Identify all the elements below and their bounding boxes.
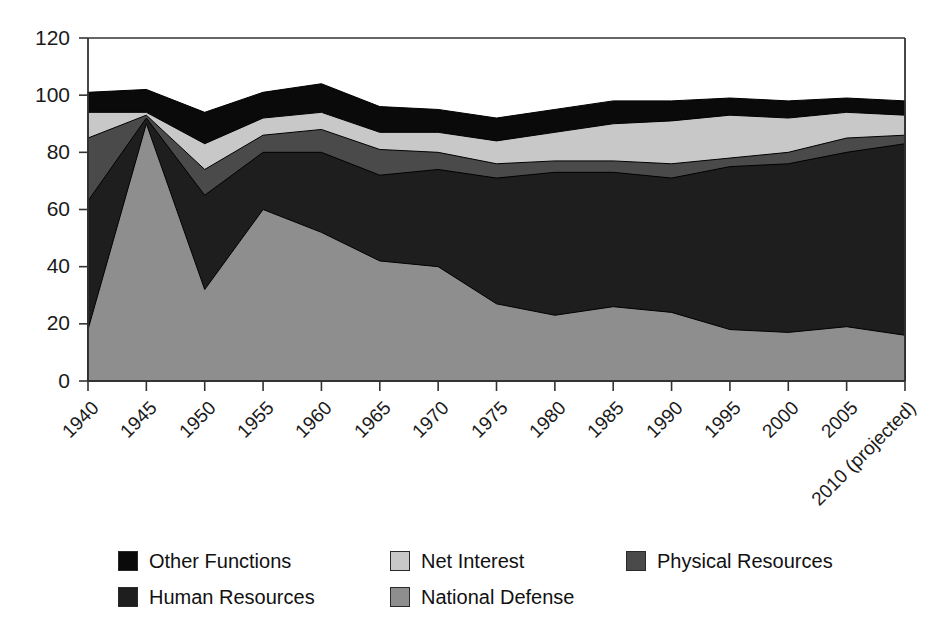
legend-label-physical-resources: Physical Resources (657, 551, 833, 571)
x-axis-ticks (88, 381, 905, 391)
legend-item-net-interest[interactable]: Net Interest (390, 548, 524, 574)
legend-label-national-defense: National Defense (421, 587, 574, 607)
legend-label-other-functions: Other Functions (149, 551, 291, 571)
legend-label-net-interest: Net Interest (421, 551, 524, 571)
legend-swatch-human-resources (118, 587, 138, 607)
stacked-area-chart: 120 100 80 60 40 20 0 194019451950195519… (0, 0, 943, 634)
area-series-group (88, 84, 905, 381)
legend-item-national-defense[interactable]: National Defense (390, 584, 574, 610)
legend-swatch-net-interest (390, 551, 410, 571)
chart-legend: Other Functions Human Resources Net Inte… (118, 548, 918, 618)
legend-swatch-physical-resources (626, 551, 646, 571)
legend-item-human-resources[interactable]: Human Resources (118, 584, 315, 610)
legend-swatch-national-defense (390, 587, 410, 607)
legend-item-physical-resources[interactable]: Physical Resources (626, 548, 833, 574)
legend-item-other-functions[interactable]: Other Functions (118, 548, 291, 574)
legend-swatch-other-functions (118, 551, 138, 571)
legend-label-human-resources: Human Resources (149, 587, 315, 607)
